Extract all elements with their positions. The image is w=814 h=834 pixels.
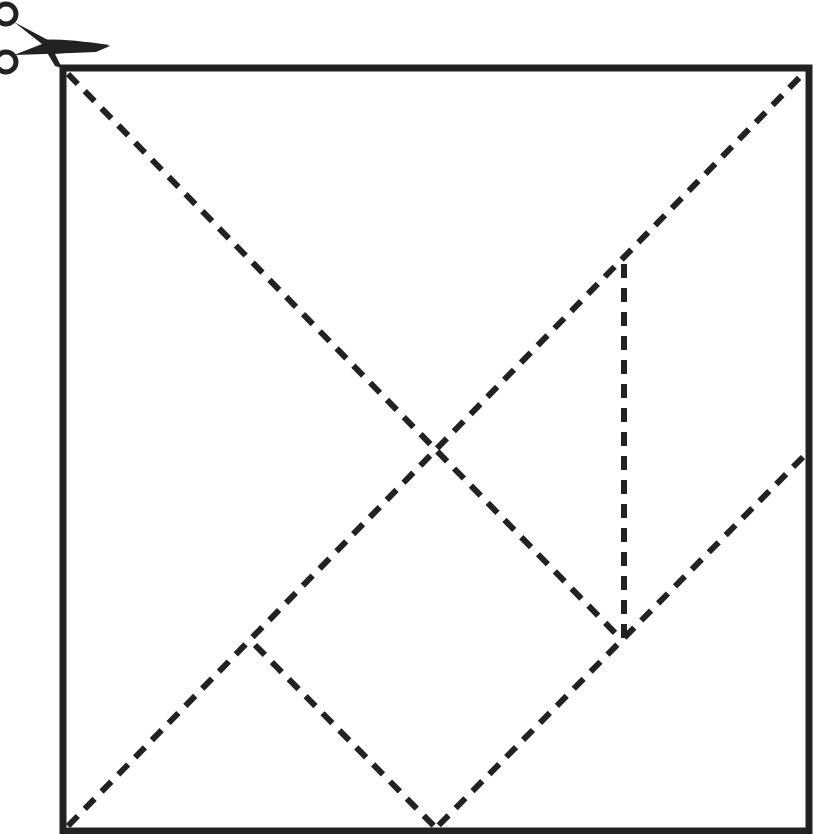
cut-line-left-quarter: [255, 645, 436, 828]
tangram-diagram: [0, 0, 814, 834]
cut-line-right-mid: [436, 457, 803, 828]
cut-lines: [68, 74, 803, 828]
cut-line-diagonal-tl-br: [68, 74, 622, 640]
scissors-icon: [0, 4, 110, 72]
